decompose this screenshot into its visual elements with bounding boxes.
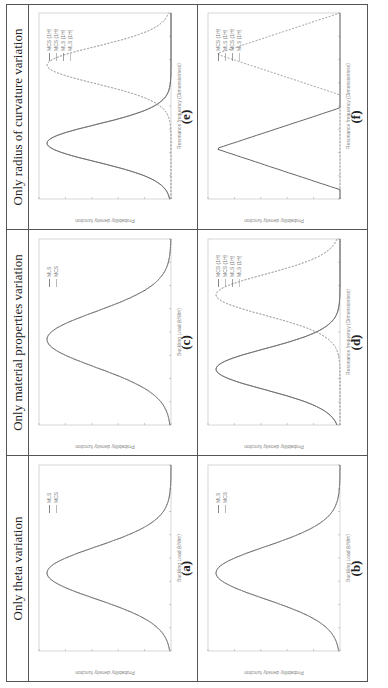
svg-text:MLS: MLS bbox=[46, 266, 52, 277]
svg-text:Probability density function: Probability density function bbox=[244, 670, 304, 676]
svg-text:Probability density function: Probability density function bbox=[75, 218, 135, 224]
svg-text:Probability density function: Probability density function bbox=[244, 218, 304, 224]
svg-text:MLS (1H): MLS (1H) bbox=[229, 255, 235, 277]
svg-text:MCS: MCS bbox=[53, 491, 59, 503]
panel-b: Buckling Load (kN/m)Probability density … bbox=[198, 455, 367, 681]
svg-text:MLS (1H): MLS (1H) bbox=[67, 29, 73, 51]
svg-text:MCS (1H): MCS (1H) bbox=[215, 254, 221, 277]
panel-label-a: (a) bbox=[178, 456, 194, 681]
chart-f: Resonance frequency (Dimensionless)Proba… bbox=[198, 5, 367, 229]
chart-c: Buckling Load (kN/m)Probability density … bbox=[29, 229, 198, 455]
figure-table: Only theta variation Only material prope… bbox=[6, 4, 368, 682]
panel-label-e: (e) bbox=[178, 5, 194, 229]
svg-text:MLS (1H): MLS (1H) bbox=[236, 255, 242, 277]
panel-label-c: (c) bbox=[178, 230, 194, 455]
svg-text:MLS (1H): MLS (1H) bbox=[236, 29, 242, 51]
panel-label-d: (d) bbox=[348, 230, 364, 455]
svg-text:MCS: MCS bbox=[222, 491, 228, 503]
column-header-theta: Only theta variation bbox=[7, 455, 29, 681]
svg-text:Probability density function: Probability density function bbox=[75, 670, 135, 676]
chart-d: Resonance frequency (Dimensionless)Proba… bbox=[198, 229, 367, 455]
panel-f: Resonance frequency (Dimensionless)Proba… bbox=[198, 5, 367, 229]
svg-text:Probability density function: Probability density function bbox=[75, 444, 135, 450]
panel-e: Resonance frequency (Dimensionless)Proba… bbox=[29, 5, 198, 229]
svg-text:MCS: MCS bbox=[53, 265, 59, 277]
svg-text:MCS (1H): MCS (1H) bbox=[222, 254, 228, 277]
svg-text:MCS (1H): MCS (1H) bbox=[215, 28, 221, 51]
chart-b: Buckling Load (kN/m)Probability density … bbox=[198, 455, 367, 681]
panel-d: Resonance frequency (Dimensionless)Proba… bbox=[198, 229, 367, 455]
svg-text:MCS (1H): MCS (1H) bbox=[53, 28, 59, 51]
panel-label-b: (b) bbox=[348, 456, 364, 681]
chart-e: Resonance frequency (Dimensionless)Proba… bbox=[29, 5, 198, 229]
panel-a: Buckling Load (kN/m)Probability density … bbox=[29, 455, 198, 681]
column-header-material: Only material properties variation bbox=[7, 229, 29, 455]
chart-a: Buckling Load (kN/m)Probability density … bbox=[29, 455, 198, 681]
column-header-radius: Only radius of curvature variation bbox=[7, 5, 29, 229]
svg-text:MLS (1H): MLS (1H) bbox=[60, 29, 66, 51]
svg-text:MLS (1H): MLS (1H) bbox=[222, 29, 228, 51]
svg-text:MCS (1H): MCS (1H) bbox=[229, 28, 235, 51]
figure-page: Only theta variation Only material prope… bbox=[0, 0, 388, 688]
panel-label-f: (f) bbox=[348, 5, 364, 229]
svg-text:MLS: MLS bbox=[215, 492, 221, 503]
svg-text:Probability density function: Probability density function bbox=[244, 444, 304, 450]
svg-text:MCS (1H): MCS (1H) bbox=[46, 28, 52, 51]
svg-text:MLS: MLS bbox=[46, 492, 52, 503]
panel-c: Buckling Load (kN/m)Probability density … bbox=[29, 229, 198, 455]
